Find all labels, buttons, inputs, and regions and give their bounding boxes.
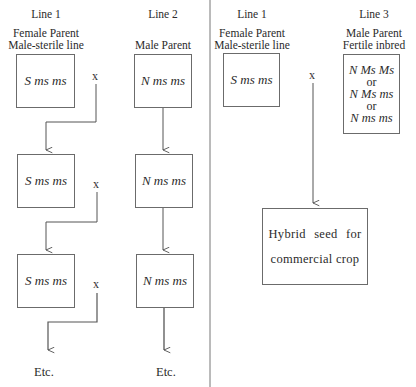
genotype-option: N ms ms (350, 112, 392, 125)
right-line1-header: Line 1 Female Parent Male-sterile line (212, 8, 292, 51)
right-line1-box: S ms ms (223, 53, 280, 107)
line2-generation-2-box: N ms ms (135, 154, 193, 208)
right-line1-role: Female Parent (212, 27, 292, 39)
line2-role: Male Parent (123, 39, 203, 51)
hybrid-label-line2: commercial crop (271, 247, 360, 272)
line3-subrole: Fertile inbred (334, 39, 414, 51)
line1-title: Line 1 (0, 8, 92, 20)
line1-header: Line 1 Female Parent Male-sterile line (0, 8, 92, 51)
line3-genotypes-box: N Ms Ms or N Ms ms or N ms ms (343, 54, 400, 134)
genotype-label: S ms ms (25, 73, 67, 89)
genotype-label: S ms ms (231, 72, 273, 88)
genotype-label: N ms ms (141, 73, 185, 89)
hybrid-label-line1: Hybrid seed for (269, 222, 362, 247)
or-label: or (367, 101, 377, 112)
line2-generation-1-box: N ms ms (134, 54, 192, 108)
line1-role: Female Parent (0, 27, 92, 39)
line2-title: Line 2 (123, 8, 203, 20)
line3-header: Line 3 Male Parent Fertile inbred (334, 8, 414, 51)
line1-generation-3-box: S ms ms (17, 254, 75, 308)
line2-header: Line 2 Male Parent (123, 8, 203, 51)
genotype-label: S ms ms (25, 273, 67, 289)
line1-generation-1-box: S ms ms (16, 54, 75, 108)
cross-symbol: x (93, 277, 99, 292)
line3-title: Line 3 (334, 8, 414, 20)
line1-subrole: Male-sterile line (0, 39, 92, 51)
line1-etc-label: Etc. (34, 365, 54, 380)
right-line1-subrole: Male-sterile line (212, 39, 292, 51)
genotype-label: N ms ms (142, 173, 186, 189)
genotype-label: N ms ms (143, 273, 187, 289)
cross-symbol: x (93, 177, 99, 192)
cross-symbol: x (309, 68, 315, 83)
hybrid-seed-box: Hybrid seed for commercial crop (262, 208, 368, 285)
cross-symbol: x (92, 69, 98, 84)
line3-role: Male Parent (334, 27, 414, 39)
right-line1-title: Line 1 (212, 8, 292, 20)
line2-generation-3-box: N ms ms (136, 254, 194, 308)
line2-etc-label: Etc. (156, 365, 176, 380)
line1-generation-2-box: S ms ms (17, 154, 75, 208)
or-label: or (367, 77, 377, 88)
genotype-label: S ms ms (25, 173, 67, 189)
